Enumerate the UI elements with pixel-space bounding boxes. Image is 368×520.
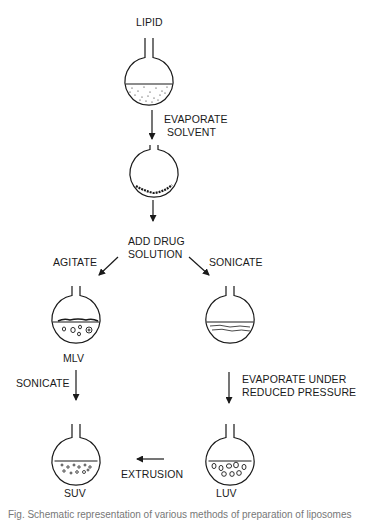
label-solvent: SOLVENT xyxy=(167,126,216,139)
label-lipid: LIPID xyxy=(136,16,163,29)
lipid-flask xyxy=(125,38,173,105)
label-mlv: MLV xyxy=(63,352,84,365)
mlv-flask xyxy=(52,286,100,343)
label-add-drug: ADD DRUG xyxy=(128,235,185,248)
emulsion-flask xyxy=(206,286,254,343)
label-sonicate-left: SONICATE xyxy=(16,377,70,390)
caption-fragment: Fig. Schematic representation of various… xyxy=(8,509,352,520)
label-suv: SUV xyxy=(64,487,86,500)
label-solution: SOLUTION xyxy=(128,248,182,261)
suv-flask xyxy=(52,424,100,485)
luv-flask xyxy=(206,424,254,485)
label-agitate: AGITATE xyxy=(53,256,97,269)
label-evaporate: EVAPORATE xyxy=(164,113,228,126)
label-sonicate-right: SONICATE xyxy=(209,256,263,269)
label-extrusion: EXTRUSION xyxy=(121,468,183,481)
label-evaporate-under: EVAPORATE UNDER xyxy=(242,373,346,386)
film-flask xyxy=(130,145,178,197)
arrow-agitate xyxy=(99,257,118,275)
label-luv: LUV xyxy=(216,487,237,500)
label-reduced-pressure: REDUCED PRESSURE xyxy=(242,386,356,399)
arrow-sonicate xyxy=(189,257,209,275)
